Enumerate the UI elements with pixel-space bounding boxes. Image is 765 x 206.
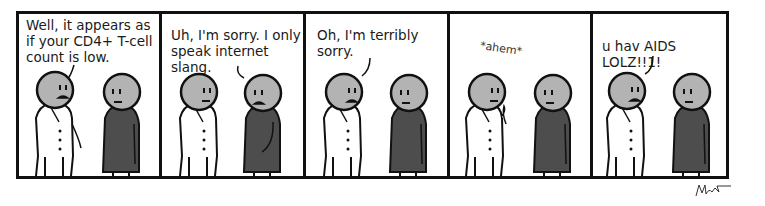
characters-scene-2	[162, 14, 303, 176]
doctor-figure	[324, 74, 362, 176]
panel-5: u hav AIDS LOLZ!!1!	[593, 14, 726, 176]
panel-4: *ahem*	[450, 14, 593, 176]
patient-figure	[534, 75, 571, 176]
patient-figure	[673, 74, 710, 176]
panel-3: Oh, I'm terribly sorry.	[306, 14, 450, 176]
patient-figure	[103, 74, 140, 176]
doctor-figure	[466, 74, 506, 176]
patient-figure	[390, 75, 427, 176]
doctor-figure	[36, 72, 81, 176]
characters-scene-4	[450, 14, 590, 176]
panel-1: Well, it appears as if your CD4+ T-cell …	[19, 14, 162, 176]
characters-scene-3	[306, 14, 447, 176]
doctor-figure	[180, 74, 217, 176]
artist-signature	[693, 180, 733, 200]
panel-2: Uh, I'm sorry. I only speak internet sla…	[162, 14, 306, 176]
comic-strip: Well, it appears as if your CD4+ T-cell …	[16, 11, 729, 179]
characters-scene-5	[593, 14, 726, 176]
characters-scene-1	[19, 14, 159, 176]
doctor-figure	[607, 73, 645, 176]
patient-figure	[244, 75, 281, 176]
